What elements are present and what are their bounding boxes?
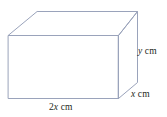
height-unit: cm	[145, 46, 157, 56]
cuboid-edges	[9, 12, 138, 99]
width-variable: x	[54, 102, 58, 112]
height-dimension-label: y cm	[138, 47, 157, 57]
depth-dimension-label: x cm	[131, 90, 150, 100]
width-unit: cm	[61, 102, 73, 112]
right-face-edge	[119, 12, 138, 99]
depth-unit: cm	[138, 89, 150, 99]
depth-variable: x	[131, 89, 135, 99]
height-variable: y	[138, 46, 142, 56]
cuboid-figure: 2x cm y cm x cm	[0, 0, 167, 117]
width-dimension-label: 2x cm	[49, 103, 72, 113]
top-face-edge	[9, 12, 138, 36]
front-face-edge	[9, 36, 119, 99]
